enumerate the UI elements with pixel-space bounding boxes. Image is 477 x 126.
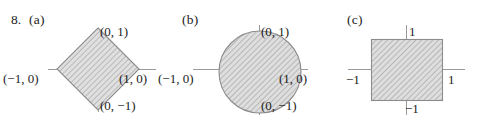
panel-a-label-left: (−1, 0) — [3, 72, 39, 85]
panel-a-letter: (a) — [29, 12, 45, 28]
panel-b: (b) (0, 1) (0, −1) (−1, 0) (1, 0) — [160, 0, 318, 126]
square-shape — [372, 40, 443, 101]
panel-a-label-bottom: (0, −1) — [100, 99, 136, 112]
square-region — [371, 39, 443, 101]
panel-c-label-top: 1 — [409, 25, 416, 38]
panel-c-label-left: −1 — [346, 73, 360, 86]
panel-b-label-right: (1, 0) — [279, 72, 307, 85]
panel-c-label-right: 1 — [448, 73, 455, 86]
panel-b-label-bottom: (0, −1) — [261, 99, 297, 112]
panel-b-label-left: (−1, 0) — [158, 72, 194, 85]
panel-c-letter: (c) — [347, 12, 363, 28]
panel-c-label-bottom: −1 — [405, 102, 419, 115]
panel-a-label-right: (1, 0) — [119, 72, 147, 85]
panel-c: (c) 1 −1 −1 1 — [318, 0, 477, 126]
panel-a-label-top: (0, 1) — [100, 25, 128, 38]
panel-b-label-top: (0, 1) — [261, 25, 289, 38]
panel-a: (a) (0, 1) (0, −1) (−1, 0) (1, 0) — [0, 0, 160, 126]
figure-container: 8. (a) (0, 1) (0, −1) (−1, 0) (1, 0) (b) — [0, 0, 477, 126]
panel-b-letter: (b) — [182, 12, 198, 28]
